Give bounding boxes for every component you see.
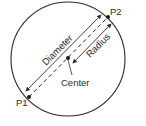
center-point [66,56,70,60]
diameter-label: Diameter [40,32,75,67]
center-label: Center [61,77,90,88]
p2-label: P2 [110,6,122,17]
circle-diagram: P2 P1 Center Diameter Radius [0,0,146,126]
radius-label: Radius [84,31,113,60]
p1-label: P1 [16,97,28,108]
center-leader [68,60,72,75]
